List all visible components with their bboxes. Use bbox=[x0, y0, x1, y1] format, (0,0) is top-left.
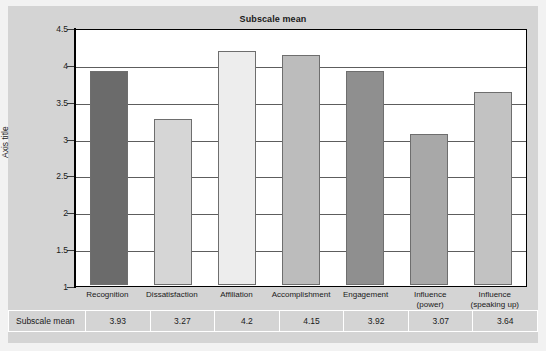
table-cell: 3.92 bbox=[344, 311, 409, 331]
y-axis-tick-label: 1.5 bbox=[23, 245, 68, 255]
table-cell: 3.27 bbox=[151, 311, 216, 331]
y-axis-tick bbox=[67, 103, 74, 104]
table-row-header: Subscale mean bbox=[9, 311, 86, 331]
x-axis-label-line1: Recognition bbox=[86, 290, 128, 299]
bar-series bbox=[77, 31, 525, 285]
bar-slot bbox=[141, 31, 205, 285]
y-axis-tick-label: 2 bbox=[23, 208, 68, 218]
table-cell: 3.64 bbox=[473, 311, 537, 331]
bar bbox=[282, 55, 320, 285]
y-axis-tick-label: 4 bbox=[23, 61, 68, 71]
x-axis-label: Accomplishment bbox=[269, 290, 334, 309]
x-axis-label: Influence(speaking up) bbox=[462, 290, 527, 309]
x-axis-label: Recognition bbox=[75, 290, 140, 309]
bar-slot bbox=[397, 31, 461, 285]
x-axis-label: Engagement bbox=[333, 290, 398, 309]
y-axis-tick-label: 1 bbox=[23, 282, 68, 292]
bar bbox=[474, 92, 512, 285]
x-axis-label: Influence(power) bbox=[398, 290, 463, 309]
y-axis-tick bbox=[67, 66, 74, 67]
x-axis-label-line1: Dissatisfaction bbox=[146, 290, 198, 299]
chart-title: Subscale mean bbox=[8, 14, 538, 24]
bar-slot bbox=[461, 31, 525, 285]
y-axis-tick bbox=[67, 287, 74, 288]
bar-slot bbox=[77, 31, 141, 285]
x-axis-label-line1: Influence bbox=[479, 290, 511, 299]
y-axis-tick bbox=[67, 213, 74, 214]
bar bbox=[154, 119, 192, 285]
bar-slot bbox=[269, 31, 333, 285]
bar bbox=[410, 134, 448, 285]
bar-slot bbox=[333, 31, 397, 285]
x-axis-label-line2: (speaking up) bbox=[462, 300, 527, 310]
bar bbox=[346, 71, 384, 285]
y-axis-title: Axis title bbox=[0, 126, 10, 158]
x-axis-label: Dissatisfaction bbox=[140, 290, 205, 309]
bar bbox=[90, 71, 128, 285]
chart-panel: Subscale mean Axis title 11.522.533.544.… bbox=[8, 6, 538, 343]
x-axis-label-line1: Accomplishment bbox=[272, 290, 331, 299]
x-axis-label-line1: Affiliation bbox=[220, 290, 252, 299]
table-cell: 3.07 bbox=[409, 311, 474, 331]
bar-slot bbox=[205, 31, 269, 285]
bar bbox=[218, 51, 256, 285]
x-axis-label-line2: (power) bbox=[398, 300, 463, 310]
y-axis-tick-label: 4.5 bbox=[23, 24, 68, 34]
x-axis-label-line1: Engagement bbox=[343, 290, 388, 299]
x-axis-label-line1: Influence bbox=[414, 290, 446, 299]
y-axis-tick bbox=[67, 29, 74, 30]
y-axis-tick-label: 2.5 bbox=[23, 171, 68, 181]
data-table: Subscale mean 3.933.274.24.153.923.073.6… bbox=[8, 310, 538, 332]
plot-area-wrapper bbox=[75, 29, 527, 287]
y-axis-tick-label: 3 bbox=[23, 135, 68, 145]
y-axis-tick bbox=[67, 250, 74, 251]
y-axis-tick bbox=[67, 140, 74, 141]
y-axis-tick-label: 3.5 bbox=[23, 98, 68, 108]
plot-area bbox=[75, 29, 527, 287]
table-cell: 4.2 bbox=[215, 311, 280, 331]
y-axis-tick bbox=[67, 176, 74, 177]
x-axis-labels: RecognitionDissatisfactionAffiliationAcc… bbox=[75, 290, 527, 309]
x-axis-label: Affiliation bbox=[204, 290, 269, 309]
chart-figure: Subscale mean Axis title 11.522.533.544.… bbox=[0, 0, 546, 351]
table-cell: 3.93 bbox=[86, 311, 151, 331]
table-cell: 4.15 bbox=[280, 311, 345, 331]
